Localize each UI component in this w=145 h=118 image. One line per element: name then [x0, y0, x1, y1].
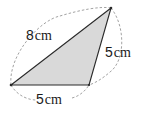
- vertex-left: [10, 84, 13, 87]
- label-5cm-bottom: 5cm: [36, 91, 62, 107]
- vertex-bottom-right: [88, 84, 90, 86]
- label-8cm: 8cm: [26, 27, 52, 43]
- triangle-diagram: 8cm 5cm 5cm: [0, 0, 145, 118]
- vertex-top: [110, 7, 113, 10]
- label-5cm-right: 5cm: [105, 44, 131, 60]
- triangle-shape: [11, 8, 111, 85]
